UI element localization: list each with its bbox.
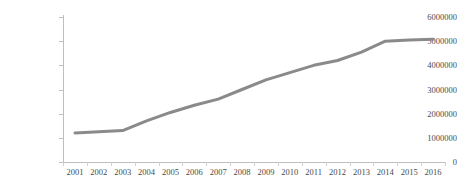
line-chart: 0100000020000003000000400000050000006000…: [0, 0, 457, 195]
x-axis-tick-label: 2006: [181, 167, 207, 178]
x-axis-tick-mark: [182, 162, 183, 166]
x-axis-tick-mark: [278, 162, 279, 166]
x-axis-tick-mark: [63, 162, 64, 166]
x-axis-tick-label: 2010: [277, 167, 303, 178]
x-axis-tick-label: 2008: [229, 167, 255, 178]
x-axis-tick-mark: [326, 162, 327, 166]
x-axis-tick-label: 2004: [134, 167, 160, 178]
x-axis-tick-label: 2016: [420, 167, 446, 178]
x-axis-tick-label: 2012: [325, 167, 351, 178]
plot-area: [63, 17, 445, 162]
x-axis-tick-mark: [254, 162, 255, 166]
x-axis-tick-mark: [206, 162, 207, 166]
x-axis-tick-label: 2009: [253, 167, 279, 178]
x-axis-tick-label: 2002: [86, 167, 112, 178]
x-axis-tick-label: 2003: [110, 167, 136, 178]
x-axis-tick-label: 2014: [372, 167, 398, 178]
x-axis-tick-label: 2005: [157, 167, 183, 178]
x-axis-tick-mark: [350, 162, 351, 166]
x-axis-tick-label: 2011: [301, 167, 327, 178]
x-axis-tick-mark: [87, 162, 88, 166]
x-axis-tick-label: 2001: [62, 167, 88, 178]
x-axis-tick-mark: [230, 162, 231, 166]
x-axis-tick-mark: [302, 162, 303, 166]
x-axis-tick-mark: [373, 162, 374, 166]
x-axis-tick-mark: [445, 162, 446, 166]
x-axis-tick-label: 2007: [205, 167, 231, 178]
x-axis-tick-mark: [111, 162, 112, 166]
x-axis-tick-label: 2015: [396, 167, 422, 178]
x-axis-tick-label: 2013: [348, 167, 374, 178]
series-line: [63, 17, 445, 162]
x-axis-tick-mark: [421, 162, 422, 166]
x-axis-tick-mark: [397, 162, 398, 166]
x-axis-tick-mark: [159, 162, 160, 166]
series-polyline: [75, 39, 433, 133]
x-axis-tick-mark: [135, 162, 136, 166]
